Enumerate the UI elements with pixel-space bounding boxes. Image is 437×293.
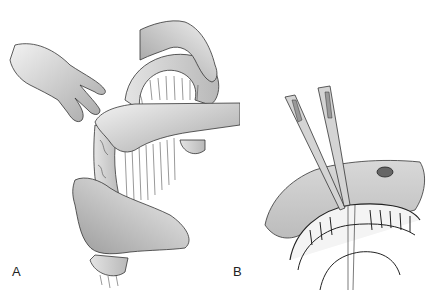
panel-label-b: B <box>233 264 242 279</box>
lower-hand <box>73 178 189 254</box>
panel-b <box>240 0 437 293</box>
panel-label-a: A <box>12 264 21 279</box>
middle-hand <box>95 103 240 152</box>
vessel-lumen <box>377 167 393 177</box>
panel-a: A <box>0 0 240 293</box>
panel-b-drawing <box>240 0 437 293</box>
left-hand-upper <box>10 44 105 122</box>
surgical-illustration: A <box>0 0 437 293</box>
panel-a-drawing <box>0 0 240 293</box>
